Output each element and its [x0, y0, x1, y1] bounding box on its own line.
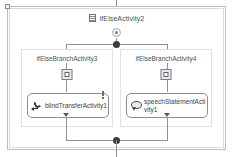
- condition-icon[interactable]: [161, 69, 172, 80]
- condition-icon[interactable]: [62, 69, 73, 80]
- right-branch-top-line: [167, 63, 168, 69]
- phone-transfer-icon: [31, 99, 44, 112]
- activity-label-blind-transfer: blindTransferActivity1: [45, 102, 107, 110]
- left-branch-top-line: [66, 63, 67, 69]
- right-branch-bottom-line: [167, 117, 168, 140]
- right-branch-mid-line: [167, 80, 168, 92]
- warning-icon[interactable]: [100, 91, 106, 99]
- branch-marker-icon: [111, 28, 122, 38]
- left-branch-mid-line: [66, 80, 67, 92]
- left-branch-bottom-line: [66, 117, 67, 140]
- page-title: ifElseActivity2: [100, 15, 145, 22]
- exit-connector: [116, 140, 117, 157]
- workflow-designer-canvas[interactable]: ifElseActivity2 ifElseBranchActivity3 bl…: [0, 0, 233, 157]
- split-node-dot: [113, 41, 120, 48]
- speech-bubble-icon: [130, 99, 143, 112]
- branch-title-left: ifElseBranchActivity3: [22, 55, 112, 62]
- activity-label-speech-statement: speechStatementActivity1: [144, 98, 206, 114]
- ifelse-activity-icon: [89, 14, 97, 23]
- ifelse-activity-title-row[interactable]: ifElseActivity2: [0, 14, 233, 23]
- branch-title-right: ifElseBranchActivity4: [121, 55, 211, 62]
- selection-handle[interactable]: [5, 4, 10, 9]
